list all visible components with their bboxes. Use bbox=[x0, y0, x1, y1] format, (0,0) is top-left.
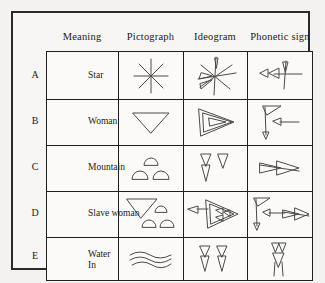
column-header-meaning: Meaning bbox=[46, 31, 118, 42]
ideogram-water bbox=[183, 237, 247, 280]
column-header-phonetic-sign: Phonetic sign bbox=[247, 31, 313, 42]
pictograph-water bbox=[118, 237, 183, 280]
phonetic-woman bbox=[247, 99, 313, 145]
ideogram-slave-woman bbox=[183, 191, 247, 237]
meaning-star: Star bbox=[88, 70, 103, 81]
ideogram-mountain bbox=[183, 145, 247, 191]
pictograph-star bbox=[118, 52, 183, 99]
meaning-woman: Woman bbox=[88, 116, 117, 127]
pictograph-mountain bbox=[118, 145, 183, 191]
ideogram-woman bbox=[183, 99, 247, 145]
row-label-c: C bbox=[27, 161, 43, 172]
column-header-pictograph: Pictograph bbox=[118, 31, 183, 42]
phonetic-water-in bbox=[247, 237, 313, 280]
row-label-d: D bbox=[27, 207, 43, 218]
phonetic-slave-woman bbox=[247, 191, 313, 237]
ideogram-star bbox=[183, 52, 247, 99]
row-label-e: E bbox=[27, 250, 43, 261]
pictograph-woman bbox=[118, 99, 183, 145]
pictograph-slave-woman bbox=[118, 191, 183, 237]
table-header-row: Meaning Pictograph Ideogram Phonetic sig… bbox=[46, 31, 313, 49]
row-label-b: B bbox=[27, 115, 43, 126]
phonetic-star bbox=[247, 52, 313, 99]
sign-table: Star Woman Mountain Slave woman Water In bbox=[46, 51, 313, 281]
meaning-water-in: Water In bbox=[88, 249, 110, 271]
figure-frame: Meaning Pictograph Ideogram Phonetic sig… bbox=[11, 11, 310, 270]
phonetic-mountain bbox=[247, 145, 313, 191]
row-label-a: A bbox=[27, 69, 43, 80]
column-header-ideogram: Ideogram bbox=[183, 31, 247, 42]
